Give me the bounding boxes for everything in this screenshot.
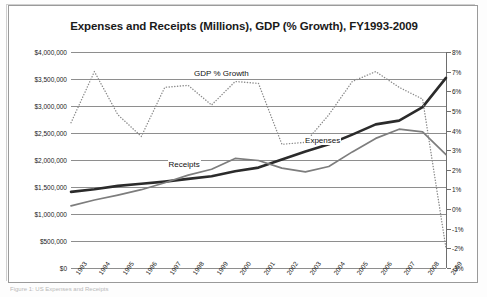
y-axis-right-tick-label: 7% — [452, 68, 461, 75]
series-lines — [71, 52, 446, 268]
y-axis-right-tick — [447, 91, 451, 92]
y-axis-left-tick-label: $2,500,000 — [34, 130, 67, 137]
y-axis-right-tick — [447, 209, 451, 210]
figure-caption: Figure 1: US Expenses and Receipts — [10, 286, 310, 296]
y-axis-right-tick — [447, 150, 451, 151]
y-axis-left-tick-label: $500,000 — [40, 238, 67, 245]
y-axis-right-tick — [447, 72, 451, 73]
y-axis-right-tick — [447, 52, 451, 53]
y-axis-right-tick-label: 6% — [452, 88, 461, 95]
y-axis-left-tick-label: $1,500,000 — [34, 184, 67, 191]
y-axis-right-tick-label: 1% — [452, 186, 461, 193]
y-axis-right-tick — [447, 131, 451, 132]
y-axis-right-tick-label: 3% — [452, 147, 461, 154]
y-axis-right-tick — [447, 189, 451, 190]
series-label-expenses: Expenses — [304, 136, 341, 145]
y-axis-right-tick-label: -1% — [452, 225, 464, 232]
figure-container: Expenses and Receipts (Millions), GDP (%… — [0, 0, 487, 297]
y-axis-right-tick — [447, 111, 451, 112]
y-axis-left-tick-label: $4,000,000 — [34, 49, 67, 56]
series-label-receipts: Receipts — [168, 160, 201, 169]
y-axis-right-tick-label: -2% — [452, 245, 464, 252]
y-axis-right-tick — [447, 229, 451, 230]
series-label-gdp-growth: GDP % Growth — [193, 69, 250, 78]
y-axis-left-tick-label: $2,000,000 — [34, 157, 67, 164]
y-axis-left-labels: $0$500,000$1,000,000$1,500,000$2,000,000… — [9, 52, 67, 268]
y-axis-left-tick-label: $3,000,000 — [34, 103, 67, 110]
chart-title: Expenses and Receipts (Millions), GDP (%… — [9, 20, 479, 32]
y-axis-left-tick-label: $3,500,000 — [34, 76, 67, 83]
y-axis-right-tick-label: 8% — [452, 49, 461, 56]
y-axis-left-tick-label: $1,000,000 — [34, 211, 67, 218]
y-axis-right-tick — [447, 170, 451, 171]
series-line — [71, 78, 446, 192]
figure-frame: Expenses and Receipts (Millions), GDP (%… — [8, 5, 478, 283]
y-axis-right-tick — [447, 248, 451, 249]
y-axis-right-tick-label: 0% — [452, 206, 461, 213]
y-axis-left-tick-label: $0 — [60, 265, 67, 272]
y-axis-right-tick-label: 5% — [452, 107, 461, 114]
y-axis-right-tick-label: 2% — [452, 166, 461, 173]
y-axis-right-tick-label: 4% — [452, 127, 461, 134]
y-axis-right-spine — [446, 52, 447, 268]
y-axis-right-labels: -3%-2%-1%0%1%2%3%4%5%6%7%8% — [452, 52, 487, 268]
plot-area: ExpensesReceiptsGDP % Growth — [71, 52, 446, 268]
